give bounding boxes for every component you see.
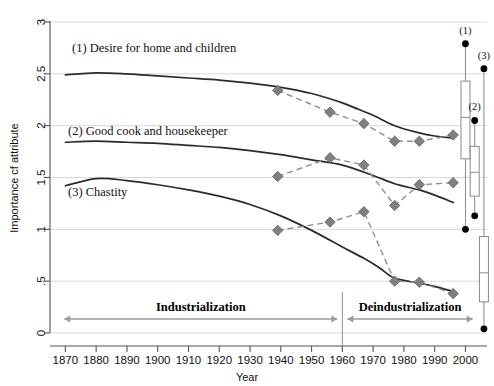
data-marker — [359, 118, 369, 128]
era-arrow-head-left-industrialization — [64, 316, 70, 323]
x-tick-label-10: 1970 — [360, 354, 386, 366]
series-3-label: (3) Chastity — [68, 185, 128, 199]
data-marker — [359, 207, 369, 217]
x-tick-label-0: 1870 — [53, 354, 79, 366]
x-tick-label-1: 1880 — [83, 354, 109, 366]
series-2-label: (2) Good cook and housekeeper — [68, 124, 229, 138]
y-tick-label-4: 2 — [35, 122, 47, 128]
boxplot-label-(3): (3) — [478, 50, 491, 62]
x-axis-title: Year — [236, 371, 259, 383]
data-marker — [414, 277, 424, 287]
era-arrow-head-right-industrialization — [331, 316, 337, 323]
data-marker — [325, 107, 335, 117]
x-axis: 1870188018901900191019201930194019501960… — [50, 346, 487, 366]
y-axis-title: Importance cf attribute — [8, 123, 20, 232]
boxplot-upper-dot-(1) — [462, 40, 469, 47]
data-marker — [325, 217, 335, 227]
x-tick-label-2: 1890 — [114, 354, 140, 366]
boxplot-label-(1): (1) — [459, 25, 472, 37]
boxplot-box-(3) — [479, 237, 488, 302]
boxplot-lower-dot-(1) — [462, 226, 469, 233]
gridlines — [50, 22, 487, 333]
y-tick-label-6: 3 — [35, 19, 47, 25]
era-arrow-head-left-deindustrialization — [347, 316, 353, 323]
data-marker — [389, 136, 399, 146]
x-tick-label-13: 2000 — [453, 354, 479, 366]
era-label-industrialization: Industrialization — [156, 300, 246, 314]
era-group: IndustrializationDeindustrialization — [64, 292, 473, 346]
x-tick-label-7: 1940 — [268, 354, 294, 366]
data-marker — [448, 130, 458, 140]
y-axis: 0.511.522.53 — [35, 19, 50, 336]
y-tick-label-3: 1.5 — [35, 170, 47, 186]
y-tick-label-5: 2.5 — [35, 66, 47, 82]
data-marker — [273, 225, 283, 235]
y-tick-label-2: 1 — [35, 226, 47, 232]
data-marker — [414, 136, 424, 146]
boxplot-upper-dot-(3) — [481, 65, 488, 72]
observed-line-1 — [278, 90, 453, 141]
boxplot-lower-dot-(2) — [471, 212, 478, 219]
x-tick-label-3: 1900 — [145, 354, 171, 366]
boxplot-box-(2) — [470, 146, 479, 196]
boxplot-group: (1)(2)(3) — [459, 25, 490, 332]
data-marker — [389, 276, 399, 286]
x-tick-label-5: 1920 — [206, 354, 232, 366]
era-arrow-head-right-deindustrialization — [467, 316, 473, 323]
x-tick-label-4: 1910 — [176, 354, 202, 366]
chart-figure: 0.511.522.53 187018801890190019101920193… — [0, 0, 494, 386]
x-tick-label-8: 1950 — [299, 354, 325, 366]
boxplot-label-(2): (2) — [469, 101, 482, 113]
x-tick-group: 1870188018901900191019201930194019501960… — [53, 346, 479, 366]
data-marker — [273, 171, 283, 181]
chart-svg: 0.511.522.53 187018801890190019101920193… — [0, 0, 494, 386]
x-tick-label-6: 1930 — [237, 354, 263, 366]
boxplot-upper-dot-(2) — [471, 117, 478, 124]
boxplot-lower-dot-(3) — [481, 325, 488, 332]
series-1-label: (1) Desire for home and children — [72, 41, 237, 55]
y-tick-label-1: .5 — [35, 276, 47, 286]
y-tick-group: 0.511.522.53 — [35, 19, 50, 336]
y-tick-label-0: 0 — [35, 330, 47, 336]
era-label-deindustrialization: Deindustrialization — [359, 300, 462, 314]
x-tick-label-9: 1960 — [330, 354, 356, 366]
data-marker — [448, 177, 458, 187]
x-tick-label-11: 1980 — [391, 354, 417, 366]
x-tick-label-12: 1990 — [422, 354, 448, 366]
boxplot-box-(1) — [461, 81, 470, 159]
